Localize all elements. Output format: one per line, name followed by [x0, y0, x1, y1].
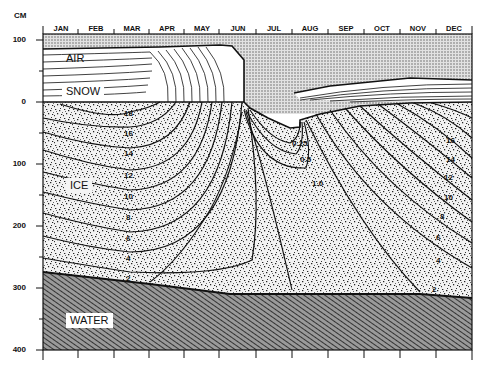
month-label: JUN: [220, 24, 256, 33]
y-tick-label: 100: [0, 159, 26, 168]
y-tick-label: 200: [0, 221, 26, 230]
isotherm-label: 0.5: [300, 155, 311, 164]
isotherm-label: 16: [124, 129, 133, 138]
isotherm-label: 0.25: [292, 139, 308, 148]
isotherm-label: 10: [444, 193, 453, 202]
month-label: JUL: [256, 24, 292, 33]
month-label: OCT: [364, 24, 400, 33]
air-label: AIR: [62, 51, 88, 66]
y-axis-unit: CM: [14, 11, 26, 20]
y-tick-label: 0: [0, 97, 26, 106]
isotherm-label: 18: [124, 109, 133, 118]
month-label: JAN: [43, 24, 79, 33]
month-label: MAY: [184, 24, 220, 33]
isotherm-label: 8: [440, 212, 444, 221]
month-label: APR: [149, 24, 185, 33]
isotherm-label: 1.0: [312, 179, 323, 188]
isotherm-label: 6: [436, 233, 440, 242]
month-label: AUG: [292, 24, 328, 33]
water-label: WATER: [66, 313, 113, 328]
x-axis-ticks-bottom: [43, 350, 472, 360]
month-label: MAR: [114, 24, 150, 33]
month-label: NOV: [400, 24, 436, 33]
isotherm-label: 2: [126, 274, 130, 283]
month-label: SEP: [328, 24, 364, 33]
y-tick-label: 400: [0, 345, 26, 354]
isotherm-label: 4: [126, 254, 130, 263]
isotherm-label: 12: [444, 173, 453, 182]
isotherm-label: 14: [124, 149, 133, 158]
y-tick-label: 100: [0, 35, 26, 44]
ice-label: ICE: [66, 178, 92, 193]
isotherm-label: 2: [432, 285, 436, 294]
y-axis-ticks: [36, 40, 43, 350]
isotherm-label: 10: [124, 192, 133, 201]
isotherm-label: 6: [126, 234, 130, 243]
isotherm-label: 4: [436, 256, 440, 265]
isotherm-label: 16: [446, 136, 455, 145]
snow-label: SNOW: [62, 84, 104, 99]
y-tick-label: 300: [0, 283, 26, 292]
lake-ice-diagram: CM 100 0 100 200 300 400 JAN FEB MAR APR…: [0, 0, 486, 375]
isotherm-label: 8: [126, 213, 130, 222]
month-label: DEC: [436, 24, 472, 33]
month-label: FEB: [78, 24, 114, 33]
isotherm-label: 14: [446, 155, 455, 164]
isotherm-label: 12: [124, 171, 133, 180]
